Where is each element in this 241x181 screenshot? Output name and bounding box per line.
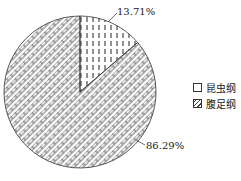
- legend-item-insecta: 昆虫纲: [193, 80, 236, 95]
- slice-label-insecta: 13.71%: [117, 6, 155, 17]
- slice-label-gastropoda: 86.29%: [146, 140, 184, 151]
- legend-swatch-icon: [193, 99, 202, 108]
- legend-swatch-icon: [193, 83, 202, 92]
- legend-item-gastropoda: 腹足纲: [193, 96, 236, 111]
